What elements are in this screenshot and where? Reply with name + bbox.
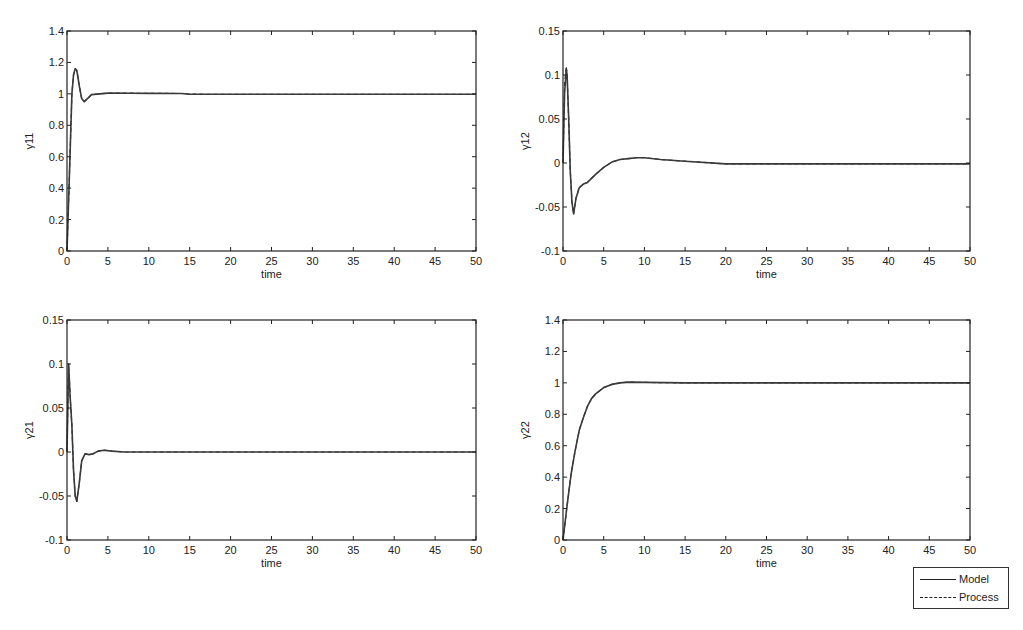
y-axis-label: γ11 [23,133,35,150]
y-tick-label: 0.05 [539,113,560,125]
y-tick-label: 0.6 [545,440,560,452]
subplot-g12: 05101520253035404550-0.1-0.0500.050.10.1… [519,25,976,280]
x-tick-label: 50 [964,255,976,267]
x-tick-label: 45 [923,255,935,267]
x-tick-label: 10 [143,544,155,556]
series-line-model [563,69,970,214]
axes-frame [563,320,970,540]
y-tick-label: 1.4 [49,25,64,37]
legend-label-process: Process [959,591,999,603]
legend-entry-process: Process [920,589,999,605]
series-line-process [563,66,970,214]
x-tick-label: 25 [265,544,277,556]
x-tick-label: 25 [760,544,772,556]
x-tick-label: 15 [679,544,691,556]
y-tick-label: 0.2 [545,503,560,515]
x-tick-label: 50 [470,255,482,267]
x-tick-label: 40 [882,544,894,556]
y-tick-label: 0.15 [539,25,560,37]
x-tick-label: 0 [64,255,70,267]
axes-frame [67,320,476,540]
x-tick-label: 0 [560,544,566,556]
figure-canvas: 0510152025303540455000.20.40.60.811.21.4… [0,0,1023,630]
x-tick-label: 5 [105,255,111,267]
legend: Model Process [913,567,1009,609]
x-tick-label: 35 [347,255,359,267]
x-tick-label: 45 [429,255,441,267]
y-tick-label: 1.2 [545,345,560,357]
y-tick-label: -0.1 [541,245,560,257]
axes-frame [67,31,476,251]
x-tick-label: 20 [720,544,732,556]
x-tick-label: 20 [224,255,236,267]
x-tick-label: 25 [760,255,772,267]
y-tick-label: 0 [554,157,560,169]
x-tick-label: 40 [388,544,400,556]
y-tick-label: 0.05 [43,402,64,414]
y-tick-label: 0.8 [49,119,64,131]
y-tick-label: 1.2 [49,56,64,68]
y-tick-label: 0.4 [49,182,64,194]
x-tick-label: 10 [638,544,650,556]
x-tick-label: 15 [184,544,196,556]
x-tick-label: 30 [801,255,813,267]
y-tick-label: 0 [554,534,560,546]
dashed-line-icon [920,597,956,598]
x-tick-label: 40 [388,255,400,267]
series-line-model [67,69,476,251]
x-axis-label: time [261,268,282,280]
x-tick-label: 30 [306,255,318,267]
axes-frame [563,31,970,251]
y-tick-label: 1 [58,88,64,100]
y-tick-label: 0.6 [49,151,64,163]
x-tick-label: 35 [842,255,854,267]
y-tick-label: 0.4 [545,471,560,483]
series-line-process [67,69,476,251]
subplot-g21: 05101520253035404550-0.1-0.0500.050.10.1… [23,314,482,569]
x-tick-label: 45 [923,544,935,556]
x-tick-label: 5 [601,544,607,556]
x-tick-label: 5 [601,255,607,267]
series-line-model [563,382,970,540]
x-tick-label: 15 [184,255,196,267]
x-tick-label: 10 [143,255,155,267]
x-tick-label: 30 [306,544,318,556]
x-tick-label: 10 [638,255,650,267]
y-tick-label: 0.15 [43,314,64,326]
x-tick-label: 25 [265,255,277,267]
x-tick-label: 5 [105,544,111,556]
subplot-g22: 0510152025303540455000.20.40.60.811.21.4… [519,314,976,569]
y-tick-label: 0.1 [545,69,560,81]
y-axis-label: γ21 [23,421,35,439]
y-tick-label: -0.05 [535,201,560,213]
legend-entry-model: Model [920,571,989,587]
x-tick-label: 0 [560,255,566,267]
series-line-process [67,364,476,501]
solid-line-icon [920,579,956,580]
x-axis-label: time [756,557,777,569]
y-tick-label: 1 [554,377,560,389]
x-tick-label: 20 [720,255,732,267]
y-tick-label: -0.1 [45,534,64,546]
x-tick-label: 40 [882,255,894,267]
y-tick-label: 0.1 [49,358,64,370]
y-axis-label: γ22 [519,421,531,439]
y-tick-label: 1.4 [545,314,560,326]
y-tick-label: 0 [58,446,64,458]
x-tick-label: 35 [842,544,854,556]
x-tick-label: 50 [964,544,976,556]
x-tick-label: 45 [429,544,441,556]
x-tick-label: 0 [64,544,70,556]
y-tick-label: 0 [58,245,64,257]
series-line-model [67,364,476,501]
x-tick-label: 35 [347,544,359,556]
x-tick-label: 30 [801,544,813,556]
legend-label-model: Model [959,573,989,585]
y-tick-label: 0.2 [49,214,64,226]
x-tick-label: 20 [224,544,236,556]
series-line-process [563,382,970,540]
y-tick-label: -0.05 [39,490,64,502]
subplot-g11: 0510152025303540455000.20.40.60.811.21.4… [23,25,482,280]
x-axis-label: time [261,557,282,569]
x-axis-label: time [756,268,777,280]
